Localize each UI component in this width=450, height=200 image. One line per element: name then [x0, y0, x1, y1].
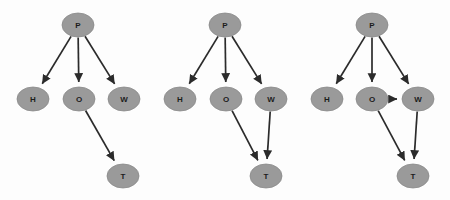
node-w[interactable]: W — [402, 87, 434, 111]
node-t[interactable]: T — [107, 164, 139, 188]
node-t[interactable]: T — [250, 164, 282, 188]
edge-p-to-w — [85, 36, 115, 84]
node-label-t: T — [264, 172, 269, 181]
edge-p-to-h — [189, 36, 218, 83]
edge-p-to-h — [336, 36, 365, 83]
edge-p-to-o — [78, 38, 79, 83]
node-label-p: P — [222, 21, 228, 30]
node-label-p: P — [369, 21, 375, 30]
edge-p-to-h — [42, 36, 71, 83]
edge-w-to-t — [414, 111, 417, 159]
node-label-o: O — [369, 95, 375, 104]
diagram-canvas: PHOWTPHOWTPHOWT — [0, 0, 450, 200]
node-label-h: H — [177, 95, 183, 104]
node-t[interactable]: T — [397, 164, 429, 188]
node-o[interactable]: O — [63, 87, 95, 111]
node-label-o: O — [76, 95, 82, 104]
node-label-p: P — [75, 21, 81, 30]
edge-o-to-t — [232, 111, 258, 161]
node-label-w: W — [267, 95, 275, 104]
edge-o-to-t — [378, 111, 405, 161]
edge-p-to-w — [379, 36, 409, 84]
node-h[interactable]: H — [311, 87, 343, 111]
node-o[interactable]: O — [210, 87, 242, 111]
node-o[interactable]: O — [356, 87, 388, 111]
node-p[interactable]: P — [356, 13, 388, 37]
edge-p-to-w — [232, 36, 262, 84]
edge-w-to-t — [267, 111, 270, 159]
node-w[interactable]: W — [255, 87, 287, 111]
edge-p-to-o — [225, 38, 226, 83]
edge-o-to-t — [86, 110, 115, 160]
node-h[interactable]: H — [17, 87, 49, 111]
node-label-h: H — [30, 95, 36, 104]
node-h[interactable]: H — [164, 87, 196, 111]
node-label-o: O — [223, 95, 229, 104]
node-w[interactable]: W — [108, 87, 140, 111]
node-label-w: W — [120, 95, 128, 104]
node-label-t: T — [121, 172, 126, 181]
node-label-w: W — [414, 95, 422, 104]
graphs-svg: PHOWTPHOWTPHOWT — [0, 0, 450, 200]
node-p[interactable]: P — [62, 13, 94, 37]
node-label-h: H — [324, 95, 330, 104]
node-p[interactable]: P — [209, 13, 241, 37]
node-label-t: T — [411, 172, 416, 181]
